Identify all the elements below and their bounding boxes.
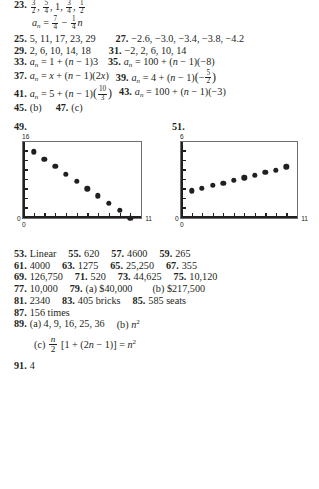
answer-entry-85: 85. 585 seats — [133, 296, 186, 307]
x-tick — [55, 213, 56, 218]
answer-number-23: 23. — [14, 0, 27, 11]
chart-number-51: 51. — [172, 121, 185, 132]
answer-entry-27: 27. −2.6, −3.0, −3.4, −3.8, −4.2 — [116, 34, 245, 45]
data-point — [189, 188, 194, 193]
result-exp-89c: 2 — [133, 338, 137, 346]
answer-number-35: 35. — [108, 57, 121, 68]
answer-number-47: 47. — [56, 103, 69, 114]
x-tick — [98, 213, 99, 218]
answer-row-91: 91. 4 — [0, 361, 319, 372]
answer-value-29: 2, 6, 10, 14, 18 — [30, 46, 91, 57]
answer-number-25: 25. — [14, 34, 27, 45]
y-tick — [181, 188, 186, 189]
answer-entry-43: 43. an = 100 + (n − 1)(−3) — [119, 87, 226, 99]
y-min-label-51: 0 — [175, 215, 179, 222]
answer-entry-41: 41. an = 5 + (n − 1)(103) — [14, 87, 112, 102]
answer-row-87: 87. 156 times — [0, 308, 319, 319]
answer-number-41: 41. — [14, 89, 27, 100]
fraction-7-4: 74 — [52, 16, 58, 31]
y-tick — [181, 207, 186, 208]
answer-key-page: 23. 32, 54, 1, 34, 12 an = 74 − 14n 25. … — [0, 0, 319, 489]
fraction-3-4: 34 — [66, 0, 72, 15]
answer-number-39: 39. — [116, 73, 129, 84]
answer-entry-35: 35. an = 100 + (n − 1)(−8) — [108, 57, 215, 69]
answer-entry-61: 61. 4000 — [14, 261, 50, 272]
x-tick — [120, 213, 121, 218]
answer-value-41: an = 5 + (n − 1)(103) — [30, 87, 112, 102]
answer-number-27: 27. — [116, 34, 129, 45]
x-tick — [192, 213, 193, 218]
answer-number-89: 89. — [14, 319, 27, 330]
answer-row-29-31: 29. 2, 6, 10, 14, 18 31. −2, 2, 6, 10, 1… — [0, 46, 319, 57]
answer-entry-89b: (b) n2 — [117, 319, 140, 331]
x-tick — [244, 213, 245, 218]
x-min-label-49: 0 — [22, 221, 26, 228]
data-point — [231, 177, 236, 182]
fraction-10-3: 103 — [98, 86, 107, 101]
data-point — [63, 171, 68, 176]
answer-value-23: 32, 54, 1, 34, 12 — [30, 0, 86, 15]
answer-entry-89: 89. (a) 4, 9, 16, 25, 36 — [14, 319, 105, 330]
y-max-label-49: 16 — [22, 133, 29, 140]
data-point — [199, 186, 204, 191]
answer-value-55: 620 — [84, 249, 99, 260]
x-tick — [202, 213, 203, 218]
x-tick — [87, 213, 88, 218]
data-point — [128, 215, 133, 220]
data-point — [242, 175, 247, 180]
data-point — [106, 201, 111, 206]
x-tick — [66, 213, 67, 218]
answer-entry-73: 73. 44,625 — [118, 272, 162, 283]
answer-value-71: 520 — [91, 272, 106, 283]
answer-entry-53: 53. Linear — [14, 249, 56, 260]
answer-row-25-27: 25. 5, 11, 17, 23, 29 27. −2.6, −3.0, −3… — [0, 34, 319, 45]
answer-value-61: 4000 — [30, 261, 50, 272]
answer-entry-89c: (c) n2 [1 + (2n − 1)] = n2 — [0, 335, 319, 355]
y-tick — [181, 179, 186, 180]
answer-number-31: 31. — [109, 46, 122, 57]
x-tick — [44, 213, 45, 218]
answer-value-45: (b) — [30, 103, 42, 114]
x-tick — [213, 213, 214, 218]
answer-number-57: 57. — [111, 249, 124, 260]
answer-row-53-59: 53. Linear 55. 620 57. 4600 59. 265 — [0, 249, 319, 260]
answer-entry-33: 33. an = 1 + (n − 1)3 — [14, 57, 98, 69]
y-tick — [181, 198, 186, 199]
answer-value-35: an = 100 + (n − 1)(−8) — [124, 57, 215, 69]
answer-entry-47: 47. (c) — [56, 103, 83, 114]
answer-value-39: an = 4 + (n − 1)(−52) — [132, 71, 217, 86]
y-tick — [181, 169, 186, 170]
answer-value-75: 10,120 — [189, 272, 217, 283]
answer-value-69: 126,750 — [30, 272, 63, 283]
x-tick — [276, 213, 277, 218]
answer-number-37: 37. — [14, 71, 27, 82]
answer-value-79b: (b) $217,500 — [152, 284, 205, 295]
answer-value-31: −2, 2, 6, 10, 14 — [125, 46, 187, 57]
answer-entry-65: 65. 25,250 — [110, 261, 154, 272]
plot-area-49: 16 0 0 11 — [22, 141, 142, 219]
data-point — [85, 186, 90, 191]
answer-value-53: Linear — [30, 249, 57, 260]
answer-entry-69: 69. 126,750 — [14, 272, 63, 283]
answer-number-81: 81. — [14, 296, 27, 307]
y-tick — [23, 160, 28, 161]
fraction-1-4: 14 — [71, 16, 77, 31]
answer-number-59: 59. — [159, 249, 172, 260]
x-tick — [265, 213, 266, 218]
answer-entry-79b: (b) $217,500 — [152, 284, 205, 295]
x-max-label-49: 11 — [145, 215, 152, 222]
data-point — [42, 156, 47, 161]
answer-row-61-67: 61. 4000 63. 1275 65. 25,250 67. 355 — [0, 261, 319, 272]
y-tick — [23, 179, 28, 180]
y-tick — [23, 169, 28, 170]
answer-number-45: 45. — [14, 103, 27, 114]
answer-entry-87: 87. 156 times — [14, 308, 70, 319]
answer-row-41-43: 41. an = 5 + (n − 1)(103) 43. an = 100 +… — [0, 87, 319, 102]
answer-value-83: 405 bricks — [78, 296, 121, 307]
data-point — [74, 178, 79, 183]
x-min-label-51: 0 — [180, 221, 184, 228]
expr-89c: [1 + (2n − 1)] = — [61, 339, 125, 350]
answer-number-29: 29. — [14, 46, 27, 57]
x-tick — [255, 213, 256, 218]
answer-value-67: 355 — [182, 261, 197, 272]
